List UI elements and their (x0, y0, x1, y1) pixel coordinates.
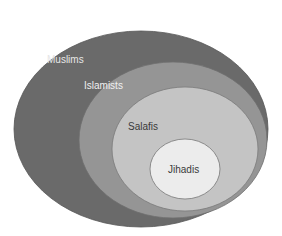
label-jihadis: Jihadis (168, 164, 199, 175)
label-muslims: Muslims (47, 54, 84, 65)
nested-ellipse-diagram: Muslims Islamists Salafis Jihadis (0, 0, 282, 236)
label-islamists: Islamists (84, 80, 123, 91)
label-salafis: Salafis (128, 121, 158, 132)
